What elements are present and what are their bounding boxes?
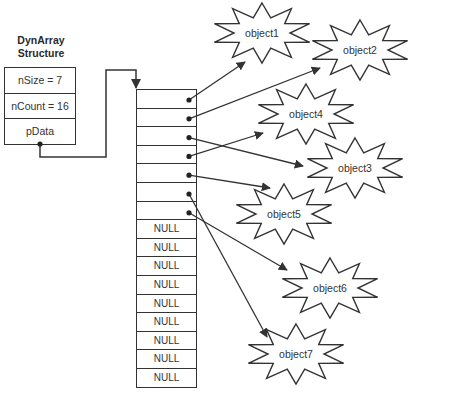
object-label-object2: object2: [343, 44, 377, 56]
pointer-dot: [186, 191, 191, 196]
pointer-arrow-to-object5: [189, 175, 270, 188]
pointer-dot: [186, 97, 191, 102]
pointer-dot: [186, 135, 191, 140]
object-label-object3: object3: [338, 162, 372, 174]
pointer-dot: [186, 173, 191, 178]
pointer-dot: [186, 154, 191, 159]
diagram-canvas: [0, 0, 465, 394]
pointer-dot: [186, 210, 191, 215]
object-label-object1: object1: [245, 27, 279, 39]
object-label-object6: object6: [313, 282, 347, 294]
object-label-object5: object5: [267, 208, 301, 220]
object-label-object7: object7: [279, 348, 313, 360]
pointer-arrow-to-object3: [189, 138, 303, 166]
pdata-connector-arrow: [40, 70, 136, 157]
pdata-pointer-dot: [37, 141, 42, 146]
object-label-object4: object4: [289, 108, 323, 120]
pointer-arrow-to-object1: [189, 62, 245, 100]
pointer-dot: [186, 116, 191, 121]
